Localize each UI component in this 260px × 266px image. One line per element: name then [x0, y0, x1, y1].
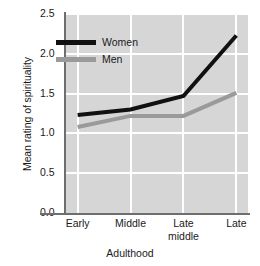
x-axis-tick-label: Late	[196, 217, 260, 230]
legend-item: Women	[56, 36, 166, 50]
legend-item: Men	[56, 53, 166, 67]
legend-label: Women	[102, 36, 138, 49]
y-axis-tick-label: 2.5	[40, 8, 66, 19]
x-axis-title: Adulthood	[0, 247, 260, 259]
legend-label: Men	[102, 53, 122, 66]
chart-legend: WomenMen	[56, 36, 166, 70]
y-axis-title: Mean rating of spirituality	[21, 14, 33, 214]
x-axis-tick-labels: EarlyMiddleLatemiddleLate	[0, 217, 260, 247]
y-axis-tick-label: 1.0	[40, 127, 66, 138]
chart-figure: Mean rating of spirituality 0.00.51.01.5…	[0, 0, 260, 266]
legend-swatch-men	[56, 57, 96, 62]
legend-swatch-women	[56, 40, 96, 45]
x-axis-tick-label-line: Late	[196, 217, 260, 230]
x-axis-tick-label-line: middle	[143, 230, 223, 243]
y-axis-tick-label: 1.5	[40, 88, 66, 99]
y-axis-tick-label: 0.5	[40, 167, 66, 178]
series-line-men	[78, 93, 237, 127]
x-axis-line	[40, 213, 250, 215]
